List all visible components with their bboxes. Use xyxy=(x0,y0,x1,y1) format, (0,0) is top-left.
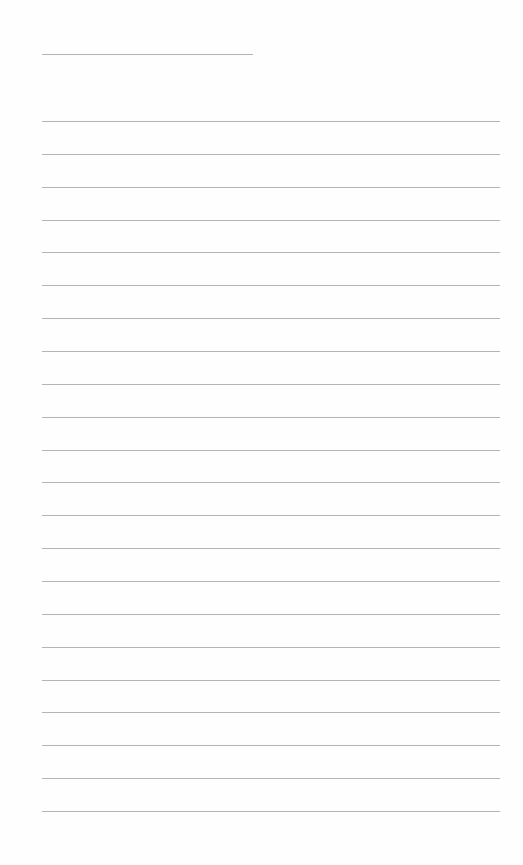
ruled-line xyxy=(42,811,500,812)
title-line xyxy=(42,54,253,55)
ruled-line xyxy=(42,417,500,418)
ruled-line xyxy=(42,778,500,779)
ruled-line xyxy=(42,614,500,615)
ruled-line xyxy=(42,154,500,155)
ruled-line xyxy=(42,581,500,582)
ruled-line xyxy=(42,384,500,385)
ruled-line xyxy=(42,647,500,648)
ruled-line xyxy=(42,548,500,549)
ruled-line xyxy=(42,680,500,681)
ruled-line xyxy=(42,745,500,746)
ruled-line xyxy=(42,121,500,122)
ruled-line xyxy=(42,482,500,483)
lined-page xyxy=(0,0,523,865)
ruled-line xyxy=(42,220,500,221)
ruled-line xyxy=(42,450,500,451)
ruled-line xyxy=(42,318,500,319)
ruled-line xyxy=(42,187,500,188)
ruled-line xyxy=(42,515,500,516)
ruled-line xyxy=(42,252,500,253)
ruled-line xyxy=(42,285,500,286)
ruled-line xyxy=(42,351,500,352)
ruled-line xyxy=(42,712,500,713)
